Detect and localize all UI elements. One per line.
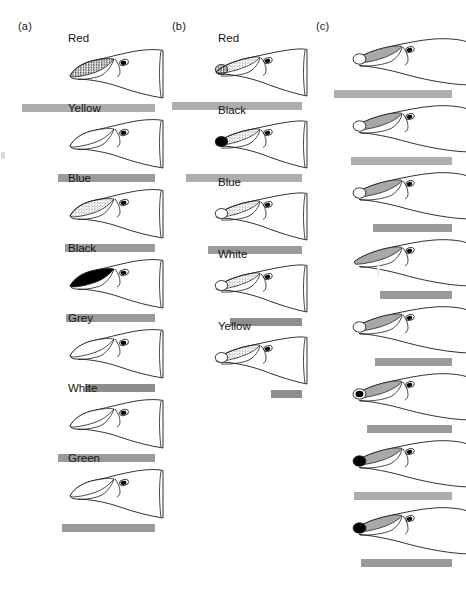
panel-letter-c: (c): [316, 20, 329, 32]
value-bar-c-4: [380, 291, 452, 299]
row-label-a-4: Black: [68, 242, 96, 254]
scan-artifact-speck: [1, 152, 5, 159]
value-bar-c-3: [373, 224, 452, 232]
panel-letter-a: (a): [18, 20, 32, 32]
fish-head-diagram-c-1: [348, 36, 466, 88]
row-label-a-5: Grey: [68, 312, 93, 324]
fish-head-diagram-c-4: [348, 237, 466, 289]
fish-head-diagram-b-3: [210, 190, 310, 244]
fish-head-diagram-b-5: [210, 334, 310, 388]
value-bar-c-8: [361, 559, 452, 567]
row-label-b-3: Blue: [218, 176, 241, 188]
fish-head-diagram-a-2: [62, 116, 167, 172]
row-label-a-6: White: [68, 382, 97, 394]
fish-head-diagram-c-8: [348, 505, 466, 557]
value-bar-c-6: [367, 425, 452, 433]
fish-head-diagram-b-1: [210, 46, 310, 100]
value-bar-c-5: [375, 358, 452, 366]
fish-head-diagram-a-6: [62, 396, 167, 452]
fish-head-diagram-a-7: [62, 466, 167, 522]
fish-head-diagram-c-3: [348, 170, 466, 222]
row-label-b-1: Red: [218, 32, 239, 44]
fish-head-diagram-a-3: [62, 186, 167, 242]
fish-head-diagram-a-4: [62, 256, 167, 312]
fish-head-diagram-b-4: [210, 262, 310, 316]
row-label-a-3: Blue: [68, 172, 91, 184]
row-label-a-7: Green: [68, 452, 100, 464]
fish-head-diagram-b-2: [210, 118, 310, 172]
value-bar-a-7: [62, 524, 155, 532]
row-label-a-2: Yellow: [68, 102, 101, 114]
row-label-a-1: Red: [68, 32, 89, 44]
fish-head-diagram-c-2: [348, 103, 466, 155]
row-label-b-4: White: [218, 248, 247, 260]
fish-head-diagram-c-7: [348, 438, 466, 490]
panel-letter-b: (b): [172, 20, 186, 32]
value-bar-c-7: [354, 492, 452, 500]
row-label-b-5: Yellow: [218, 320, 251, 332]
fish-head-diagram-c-6: [348, 371, 466, 423]
value-bar-b-5: [271, 390, 302, 398]
fish-head-diagram-c-5: [348, 304, 466, 356]
value-bar-c-2: [351, 157, 452, 165]
fish-head-diagram-a-5: [62, 326, 167, 382]
row-label-b-2: Black: [218, 104, 246, 116]
value-bar-c-1: [334, 90, 452, 98]
value-bar-b-2: [186, 174, 302, 182]
fish-head-diagram-a-1: [62, 46, 167, 102]
